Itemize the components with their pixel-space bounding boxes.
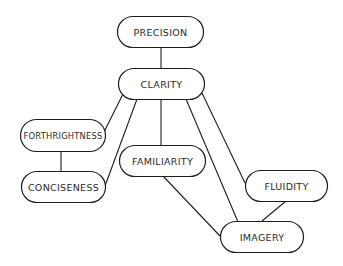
edge-familiarity-imagery xyxy=(163,176,220,236)
edge-fluidity-imagery xyxy=(262,201,286,221)
node-imagery: IMAGERY xyxy=(221,222,304,253)
node-clarity: CLARITY xyxy=(119,69,205,100)
edge-clarity-forthrightness xyxy=(104,94,123,132)
node-familiarity: FAMILIARITY xyxy=(120,146,206,177)
node-label: FAMILIARITY xyxy=(132,156,193,167)
node-fluidity: FLUIDITY xyxy=(246,171,328,202)
edge-clarity-fluidity xyxy=(202,93,245,183)
node-label: IMAGERY xyxy=(240,232,285,243)
node-label: CONCISENESS xyxy=(28,182,99,193)
node-precision: PRECISION xyxy=(118,17,204,48)
node-forthrightness: FORTHRIGHTNESS xyxy=(21,120,106,152)
node-label: FORTHRIGHTNESS xyxy=(24,130,103,141)
node-label: CLARITY xyxy=(141,79,183,90)
node-label: PRECISION xyxy=(134,27,188,38)
node-label: FLUIDITY xyxy=(264,181,308,192)
concept-diagram: PRECISIONCLARITYFORTHRIGHTNESSCONCISENES… xyxy=(0,0,343,266)
nodes-layer: PRECISIONCLARITYFORTHRIGHTNESSCONCISENES… xyxy=(21,17,328,253)
node-conciseness: CONCISENESS xyxy=(22,172,106,203)
